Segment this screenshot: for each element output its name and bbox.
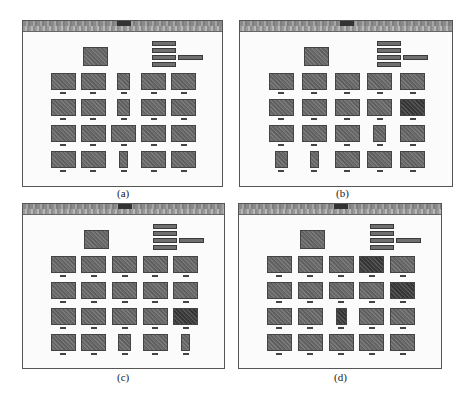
control-button-3[interactable]: [153, 238, 177, 243]
result-thumbnail[interactable]: [112, 282, 137, 299]
result-thumbnail[interactable]: [267, 282, 292, 299]
result-thumbnail[interactable]: [335, 99, 360, 116]
control-button-3[interactable]: [377, 55, 401, 60]
result-thumbnail[interactable]: [51, 256, 76, 273]
result-thumbnail[interactable]: [141, 125, 166, 142]
result-thumbnail[interactable]: [336, 308, 347, 325]
result-thumbnail[interactable]: [171, 151, 196, 168]
window-menu-bar[interactable]: [23, 209, 224, 214]
result-thumbnail[interactable]: [51, 334, 76, 351]
result-thumbnail[interactable]: [335, 151, 360, 168]
result-thumbnail[interactable]: [171, 125, 196, 142]
window-title-bar[interactable]: [240, 21, 452, 32]
result-thumbnail[interactable]: [390, 282, 415, 299]
control-button-4[interactable]: [377, 62, 401, 67]
result-thumbnail[interactable]: [400, 125, 425, 142]
result-thumbnail[interactable]: [112, 256, 137, 273]
result-thumbnail[interactable]: [390, 256, 415, 273]
result-thumbnail[interactable]: [359, 308, 384, 325]
result-thumbnail[interactable]: [141, 151, 166, 168]
control-button-2[interactable]: [152, 48, 176, 53]
result-thumbnail[interactable]: [81, 125, 106, 142]
result-thumbnail[interactable]: [335, 125, 360, 142]
result-thumbnail[interactable]: [143, 334, 168, 351]
result-thumbnail[interactable]: [112, 308, 137, 325]
result-thumbnail[interactable]: [367, 151, 392, 168]
result-thumbnail[interactable]: [298, 256, 323, 273]
result-thumbnail[interactable]: [302, 73, 327, 90]
result-thumbnail[interactable]: [267, 256, 292, 273]
result-thumbnail[interactable]: [400, 99, 425, 116]
result-thumbnail[interactable]: [141, 73, 166, 90]
result-thumbnail[interactable]: [269, 73, 294, 90]
control-button-2[interactable]: [153, 231, 177, 236]
result-thumbnail[interactable]: [329, 256, 354, 273]
window-title-bar[interactable]: [23, 204, 224, 215]
result-thumbnail[interactable]: [390, 334, 415, 351]
result-thumbnail[interactable]: [367, 73, 392, 90]
result-thumbnail[interactable]: [81, 73, 106, 90]
control-button-2[interactable]: [377, 48, 401, 53]
result-thumbnail[interactable]: [275, 151, 288, 168]
result-thumbnail[interactable]: [111, 125, 136, 142]
result-thumbnail[interactable]: [51, 282, 76, 299]
result-thumbnail[interactable]: [171, 73, 196, 90]
result-thumbnail[interactable]: [267, 334, 292, 351]
result-thumbnail[interactable]: [171, 99, 196, 116]
extra-control-button[interactable]: [178, 55, 203, 60]
extra-control-button[interactable]: [179, 238, 204, 243]
result-thumbnail[interactable]: [359, 334, 384, 351]
window-menu-bar[interactable]: [240, 26, 452, 31]
result-thumbnail[interactable]: [359, 256, 384, 273]
control-button-4[interactable]: [153, 245, 177, 250]
result-thumbnail[interactable]: [298, 308, 323, 325]
result-thumbnail[interactable]: [400, 73, 425, 90]
result-thumbnail[interactable]: [181, 334, 190, 351]
control-button-3[interactable]: [152, 55, 176, 60]
result-thumbnail[interactable]: [118, 334, 131, 351]
result-thumbnail[interactable]: [117, 99, 130, 116]
control-button-4[interactable]: [370, 245, 394, 250]
window-menu-bar[interactable]: [23, 26, 222, 31]
result-thumbnail[interactable]: [81, 99, 106, 116]
result-thumbnail[interactable]: [51, 308, 76, 325]
result-thumbnail[interactable]: [269, 99, 294, 116]
control-button-1[interactable]: [153, 224, 177, 229]
window-title-bar[interactable]: [23, 21, 222, 32]
extra-control-button[interactable]: [396, 238, 421, 243]
result-thumbnail[interactable]: [51, 125, 76, 142]
result-thumbnail[interactable]: [367, 99, 392, 116]
result-thumbnail[interactable]: [400, 151, 425, 168]
result-thumbnail[interactable]: [310, 151, 319, 168]
result-thumbnail[interactable]: [51, 151, 76, 168]
window-menu-bar[interactable]: [239, 209, 441, 214]
result-thumbnail[interactable]: [329, 282, 354, 299]
result-thumbnail[interactable]: [173, 308, 198, 325]
result-thumbnail[interactable]: [81, 151, 106, 168]
result-thumbnail[interactable]: [298, 282, 323, 299]
control-button-1[interactable]: [152, 41, 176, 46]
result-thumbnail[interactable]: [81, 308, 106, 325]
result-thumbnail[interactable]: [269, 125, 294, 142]
result-thumbnail[interactable]: [143, 256, 168, 273]
result-thumbnail[interactable]: [390, 308, 415, 325]
result-thumbnail[interactable]: [51, 99, 76, 116]
result-thumbnail[interactable]: [373, 125, 386, 142]
result-thumbnail[interactable]: [298, 334, 323, 351]
extra-control-button[interactable]: [403, 55, 428, 60]
window-title-bar[interactable]: [239, 204, 441, 215]
result-thumbnail[interactable]: [143, 308, 168, 325]
result-thumbnail[interactable]: [51, 73, 76, 90]
result-thumbnail[interactable]: [143, 282, 168, 299]
result-thumbnail[interactable]: [173, 256, 198, 273]
result-thumbnail[interactable]: [81, 282, 106, 299]
result-thumbnail[interactable]: [81, 334, 106, 351]
result-thumbnail[interactable]: [119, 151, 128, 168]
result-thumbnail[interactable]: [359, 282, 384, 299]
control-button-1[interactable]: [377, 41, 401, 46]
result-thumbnail[interactable]: [81, 256, 106, 273]
result-thumbnail[interactable]: [335, 73, 360, 90]
result-thumbnail[interactable]: [141, 99, 166, 116]
result-thumbnail[interactable]: [173, 282, 198, 299]
control-button-1[interactable]: [370, 224, 394, 229]
